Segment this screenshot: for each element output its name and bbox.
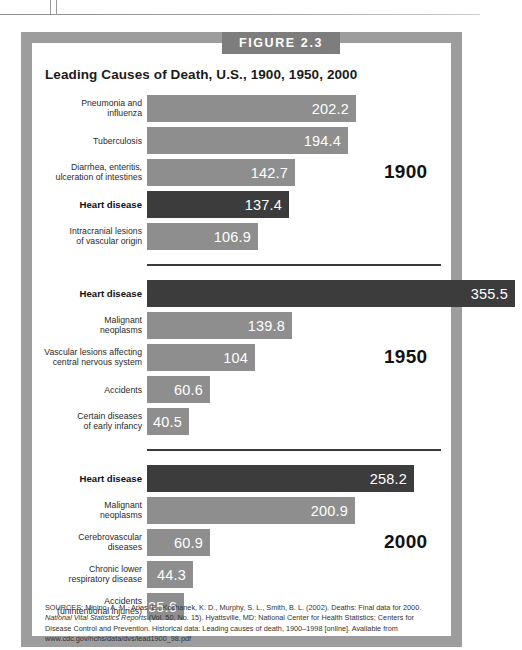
figure-inner-panel: FIGURE 2.3 Leading Causes of Death, U.S.…: [32, 43, 451, 636]
bar-row: Heart disease258.2: [32, 465, 451, 492]
bar-row-label: Certain diseasesof early infancy: [2, 411, 142, 432]
bar-row: Tuberculosis194.4: [32, 127, 451, 154]
bar-value-label: 137.4: [245, 197, 282, 213]
bar-row-label: Tuberculosis: [2, 135, 142, 146]
group-separator-rule: [147, 449, 441, 451]
page-edge-tick-left: [50, 0, 51, 15]
bar: 60.9: [147, 529, 210, 556]
bar-value-label: 355.5: [471, 286, 508, 302]
bar-row-label: Malignantneoplasms: [2, 315, 142, 336]
bar-row: Intracranial lesionsof vascular origin10…: [32, 223, 451, 250]
bar-row: Heart disease137.4: [32, 191, 451, 218]
group-year-label-1900: 1900: [384, 161, 427, 183]
bar-row: Malignantneoplasms139.8: [32, 312, 451, 339]
group-year-label-2000: 2000: [384, 531, 427, 553]
bar-row: Heart disease355.5: [32, 280, 451, 307]
bar-row: Pneumonia andinfluenza202.2: [32, 95, 451, 122]
figure-frame: FIGURE 2.3 Leading Causes of Death, U.S.…: [21, 32, 462, 647]
bar: 200.9: [147, 497, 355, 524]
group-year-label-1950: 1950: [384, 346, 427, 368]
bar-value-label: 139.8: [248, 318, 285, 334]
bar-value-label: 60.6: [174, 382, 203, 398]
bar-row-label: Chronic lowerrespiratory disease: [2, 564, 142, 585]
sources-journal-name: National Vital Statistics Reports: [45, 613, 147, 622]
bar: 137.4: [147, 191, 289, 218]
bar-value-label: 200.9: [311, 503, 348, 519]
bar-value-label: 142.7: [251, 165, 288, 181]
bar: 106.9: [147, 223, 258, 250]
bar: 355.5: [147, 280, 515, 307]
bar: 202.2: [147, 95, 356, 122]
page-scan-edge-artifact: [0, 0, 522, 22]
sources-note: SOURCES: Minino, A. M., Arias, E., Kocha…: [45, 603, 437, 645]
bar-chart-plot-area: Pneumonia andinfluenza202.2Tuberculosis1…: [32, 95, 451, 580]
bar-row-label: Malignantneoplasms: [2, 500, 142, 521]
bar-value-label: 194.4: [304, 133, 341, 149]
page-edge-tick-right: [56, 0, 57, 15]
page-top-rule: [0, 14, 480, 15]
bar: 139.8: [147, 312, 292, 339]
bar-row-label: Pneumonia andinfluenza: [2, 98, 142, 119]
bar-row: Malignantneoplasms200.9: [32, 497, 451, 524]
bar-row-label: Vascular lesions affectingcentral nervou…: [2, 347, 142, 368]
bar: 258.2: [147, 465, 414, 492]
figure-number-tab: FIGURE 2.3: [222, 32, 340, 54]
figure-number-label: FIGURE 2.3: [239, 36, 323, 50]
bar-value-label: 258.2: [370, 471, 407, 487]
bar-row: Accidents60.6: [32, 376, 451, 403]
bar-row-label: Heart disease: [2, 473, 142, 484]
bar-row-label: Cerebrovasculardiseases: [2, 532, 142, 553]
bar-value-label: 202.2: [312, 101, 349, 117]
bar-value-label: 104: [223, 350, 248, 366]
bar-value-label: 106.9: [214, 229, 251, 245]
bar-value-label: 40.5: [153, 414, 182, 430]
bar: 40.5: [147, 408, 189, 435]
bar: 194.4: [147, 127, 348, 154]
bar-row: Certain diseasesof early infancy40.5: [32, 408, 451, 435]
bar-row-label: Heart disease: [2, 288, 142, 299]
bar: 60.6: [147, 376, 210, 403]
bar-value-label: 44.3: [157, 567, 186, 583]
chart-title: Leading Causes of Death, U.S., 1900, 195…: [45, 67, 357, 82]
bar: 142.7: [147, 159, 295, 186]
bar-row-label: Heart disease: [2, 199, 142, 210]
sources-text-part1: SOURCES: Minino, A. M., Arias, E., Kocha…: [45, 603, 421, 612]
bar: 44.3: [147, 561, 193, 588]
bar-value-label: 60.9: [174, 535, 203, 551]
group-separator-rule: [147, 264, 441, 266]
bar-row-label: Intracranial lesionsof vascular origin: [2, 226, 142, 247]
bar-row-label: Diarrhea, enteritis,ulceration of intest…: [2, 162, 142, 183]
bar-row-label: Accidents: [2, 384, 142, 395]
bar-row: Chronic lowerrespiratory disease44.3: [32, 561, 451, 588]
bar: 104: [147, 344, 255, 371]
